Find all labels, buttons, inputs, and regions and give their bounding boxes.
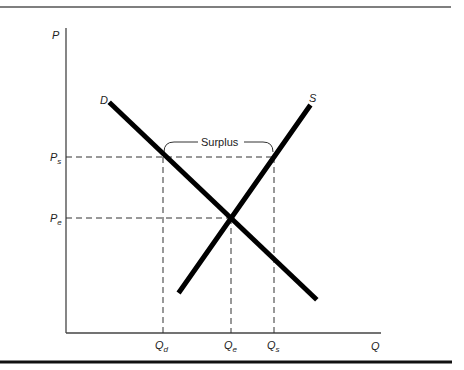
surplus-bracket-left (164, 142, 198, 152)
supply-demand-diagram: P Q Surplus D S Ps Pe Qd Qe Qs (0, 0, 464, 370)
price-label-ps: Ps (50, 151, 61, 166)
quantity-label-qs: Qs (267, 339, 280, 354)
guide-lines (66, 157, 274, 333)
quantity-label-qd: Qd (155, 339, 169, 354)
price-label-pe: Pe (50, 212, 62, 227)
y-axis-label: P (52, 29, 60, 41)
surplus-label: Surplus (201, 136, 239, 148)
supply-label: S (309, 92, 317, 104)
x-axis-label: Q (371, 340, 380, 352)
demand-curve (111, 104, 315, 298)
supply-curve (180, 107, 309, 291)
axes: P Q (52, 28, 381, 352)
quantity-label-qe: Qe (224, 339, 238, 354)
surplus-bracket-right (244, 142, 273, 152)
demand-label: D (100, 94, 108, 106)
